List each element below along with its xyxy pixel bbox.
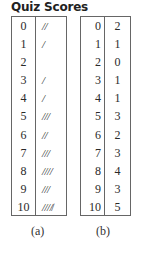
score-column: 0 1 2 3 4 5 6 7 8 9 10 (81, 17, 105, 215)
tally-cell: /// (36, 107, 66, 125)
frequency-column: 2 1 0 1 1 3 2 3 4 3 5 (105, 17, 130, 215)
score-cell: 7 (81, 144, 104, 162)
frequency-cell: 1 (105, 71, 130, 89)
score-cell: 4 (81, 89, 104, 107)
tally-table: 0 1 2 3 4 5 6 7 8 9 10 // / / / /// // /… (11, 16, 67, 216)
frequency-cell: 0 (105, 53, 130, 71)
score-cell: 6 (12, 126, 35, 144)
score-cell: 7 (12, 144, 35, 162)
chart-title: Quiz Scores (11, 0, 88, 14)
frequency-cell: 2 (105, 17, 130, 35)
tally-cell (36, 53, 66, 71)
tally-cell: ////̸ (36, 198, 66, 216)
score-cell: 2 (81, 53, 104, 71)
frequency-cell: 4 (105, 162, 130, 180)
score-cell: 10 (81, 198, 104, 216)
score-cell: 8 (81, 162, 104, 180)
score-cell: 9 (12, 180, 35, 198)
score-cell: 6 (81, 126, 104, 144)
frequency-table: 0 1 2 3 4 5 6 7 8 9 10 2 1 0 1 1 3 2 3 4… (80, 16, 131, 216)
score-cell: 0 (81, 17, 104, 35)
tally-cell: / (36, 71, 66, 89)
score-cell: 10 (12, 198, 35, 216)
score-cell: 5 (12, 107, 35, 125)
score-cell: 5 (81, 107, 104, 125)
score-cell: 1 (81, 35, 104, 53)
score-cell: 3 (12, 71, 35, 89)
score-cell: 3 (81, 71, 104, 89)
tally-column: // / / / /// // /// //// /// ////̸ (36, 17, 66, 215)
tally-cell: // (36, 17, 66, 35)
score-cell: 2 (12, 53, 35, 71)
frequency-cell: 5 (105, 198, 130, 216)
score-cell: 0 (12, 17, 35, 35)
tally-cell: //// (36, 162, 66, 180)
frequency-cell: 3 (105, 144, 130, 162)
score-cell: 4 (12, 89, 35, 107)
tally-cell: /// (36, 144, 66, 162)
score-cell: 1 (12, 35, 35, 53)
score-cell: 9 (81, 180, 104, 198)
tally-cell: / (36, 89, 66, 107)
tally-cell: // (36, 126, 66, 144)
caption-b: (b) (96, 224, 110, 239)
score-column: 0 1 2 3 4 5 6 7 8 9 10 (12, 17, 36, 215)
score-cell: 8 (12, 162, 35, 180)
tally-cell: /// (36, 180, 66, 198)
tally-cell: / (36, 35, 66, 53)
frequency-cell: 3 (105, 180, 130, 198)
frequency-cell: 3 (105, 107, 130, 125)
frequency-cell: 1 (105, 89, 130, 107)
frequency-cell: 1 (105, 35, 130, 53)
caption-a: (a) (31, 224, 44, 239)
frequency-cell: 2 (105, 126, 130, 144)
